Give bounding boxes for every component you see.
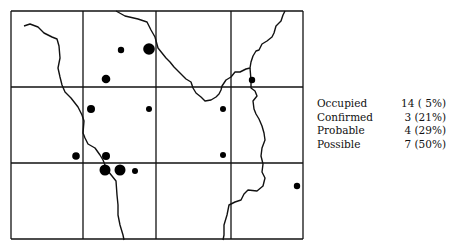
legend-row-confirmed: Confirmed 3 (21%) xyxy=(317,111,446,125)
river-lines xyxy=(24,11,285,240)
record-dot-possible xyxy=(118,47,124,53)
legend-label: Confirmed xyxy=(317,111,400,125)
record-dot-possible xyxy=(132,168,138,174)
record-dot-possible xyxy=(146,106,152,112)
legend-row-possible: Possible 7 (50%) xyxy=(317,138,446,152)
legend-label: Probable xyxy=(317,124,400,138)
record-dot-occupied xyxy=(143,43,155,55)
legend-label: Occupied xyxy=(317,97,400,111)
distribution-map xyxy=(0,0,310,252)
legend-row-occupied: Occupied 14 ( 5%) xyxy=(317,97,446,111)
record-dot-probable xyxy=(87,105,95,113)
record-dot-possible xyxy=(220,106,226,112)
legend-label: Possible xyxy=(317,138,400,152)
record-dot-probable xyxy=(72,152,80,160)
legend: Occupied 14 ( 5%) Confirmed 3 (21%) Prob… xyxy=(317,97,446,151)
legend-value: 7 (50%) xyxy=(400,138,446,152)
legend-row-probable: Probable 4 (29%) xyxy=(317,124,446,138)
legend-value: 3 (21%) xyxy=(400,111,446,125)
record-dot-confirmed xyxy=(100,165,111,176)
record-dot-possible xyxy=(294,183,300,189)
record-dot-possible xyxy=(249,77,255,83)
legend-value: 14 ( 5%) xyxy=(400,97,446,111)
river-line xyxy=(24,24,124,240)
river-line xyxy=(223,68,265,240)
record-dot-confirmed xyxy=(115,165,126,176)
record-dot-probable xyxy=(102,75,111,84)
record-dots xyxy=(72,43,300,189)
legend-value: 4 (29%) xyxy=(400,124,446,138)
record-dot-possible xyxy=(220,152,226,158)
record-dot-probable xyxy=(102,152,110,160)
